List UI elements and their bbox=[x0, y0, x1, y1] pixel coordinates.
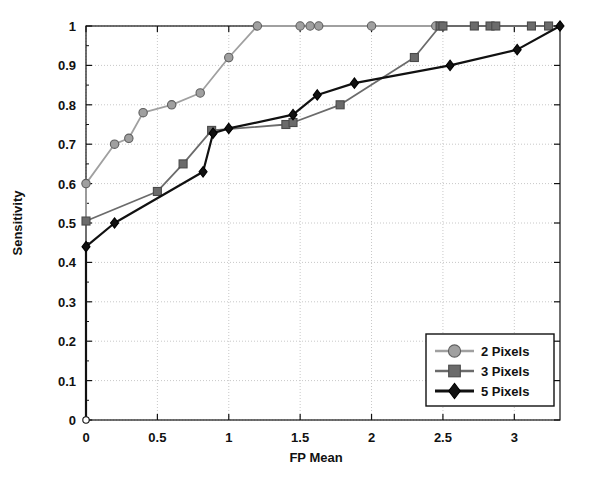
series-marker bbox=[306, 22, 314, 30]
legend-entry-label: 3 Pixels bbox=[481, 364, 529, 379]
y-axis-label: Sensitivity bbox=[10, 190, 25, 256]
series-marker bbox=[253, 22, 261, 30]
series-marker bbox=[470, 22, 478, 30]
series-marker bbox=[110, 140, 118, 148]
series-marker bbox=[167, 101, 175, 109]
x-tick-labels: 00.511.522.53 bbox=[82, 430, 518, 445]
series-marker bbox=[225, 53, 233, 61]
y-tick-label: 1 bbox=[69, 19, 76, 34]
y-tick-labels: 00.10.20.30.40.50.60.70.80.91 bbox=[58, 19, 77, 428]
legend-entry-label: 2 Pixels bbox=[481, 344, 529, 359]
y-tick-label: 0.3 bbox=[58, 295, 76, 310]
y-tick-label: 0.6 bbox=[58, 177, 76, 192]
y-tick-label: 0.8 bbox=[58, 98, 76, 113]
y-tick-label: 0.7 bbox=[58, 137, 76, 152]
series-marker bbox=[125, 134, 133, 142]
x-axis-label: FP Mean bbox=[289, 450, 342, 465]
chart-canvas: 00.511.522.53 00.10.20.30.40.50.60.70.80… bbox=[0, 0, 601, 477]
x-tick-label: 1 bbox=[225, 430, 232, 445]
x-tick-label: 3 bbox=[511, 430, 518, 445]
series-marker bbox=[179, 160, 187, 168]
legend-entry-label: 5 Pixels bbox=[481, 384, 529, 399]
chart-legend: 2 Pixels3 Pixels5 Pixels bbox=[426, 334, 554, 406]
y-tick-label: 0.4 bbox=[58, 255, 77, 270]
series-marker bbox=[82, 217, 90, 225]
roc-chart-figure: 00.511.522.53 00.10.20.30.40.50.60.70.80… bbox=[0, 0, 601, 477]
x-tick-label: 2 bbox=[368, 430, 375, 445]
series-marker bbox=[296, 22, 304, 30]
series-marker bbox=[556, 21, 564, 31]
series-marker bbox=[446, 60, 454, 70]
series-marker bbox=[153, 187, 161, 195]
series-marker bbox=[367, 22, 375, 30]
series-marker bbox=[139, 108, 147, 116]
legend-sample-marker bbox=[448, 345, 460, 357]
series-marker bbox=[315, 22, 323, 30]
series-marker bbox=[336, 101, 344, 109]
data-series bbox=[82, 22, 440, 420]
series-marker bbox=[82, 179, 90, 187]
series-marker bbox=[545, 22, 553, 30]
series-marker bbox=[350, 78, 358, 88]
x-tick-label: 1.5 bbox=[291, 430, 309, 445]
y-tick-label: 0 bbox=[69, 413, 76, 428]
series-marker bbox=[410, 54, 418, 62]
series-marker bbox=[527, 22, 535, 30]
legend-sample-marker bbox=[449, 365, 461, 377]
series-marker bbox=[492, 22, 500, 30]
x-tick-label: 0 bbox=[82, 430, 89, 445]
x-tick-label: 0.5 bbox=[148, 430, 166, 445]
series-marker bbox=[196, 89, 204, 97]
origin-marker bbox=[83, 417, 89, 423]
y-tick-label: 0.1 bbox=[58, 374, 76, 389]
y-tick-label: 0.5 bbox=[58, 216, 76, 231]
y-tick-label: 0.2 bbox=[58, 334, 76, 349]
x-tick-label: 2.5 bbox=[434, 430, 452, 445]
series-marker bbox=[439, 22, 447, 30]
y-tick-label: 0.9 bbox=[58, 58, 76, 73]
series-marker bbox=[199, 167, 207, 177]
series-marker bbox=[225, 123, 233, 133]
